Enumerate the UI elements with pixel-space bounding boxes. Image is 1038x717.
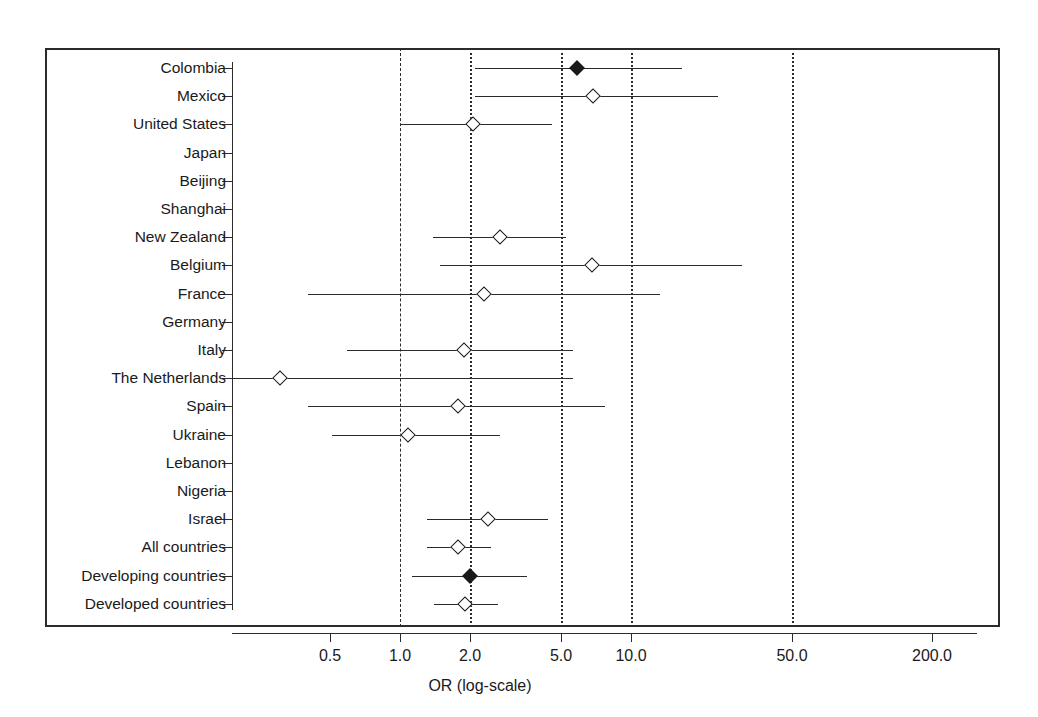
x-axis-tick: [470, 633, 471, 642]
x-axis-title-text: OR (log-scale): [428, 678, 531, 694]
x-axis-spine: [232, 633, 977, 634]
x-axis-tick-label: 50.0: [776, 648, 807, 664]
x-axis-tick-label: 200.0: [912, 648, 952, 664]
x-axis-tick-label: 1.0: [389, 648, 411, 664]
x-axis-tick-label: 2.0: [459, 648, 481, 664]
x-axis-tick: [792, 633, 793, 642]
x-axis-tick: [631, 633, 632, 642]
plot-frame: [45, 48, 1000, 627]
x-axis-tick-label: 10.0: [615, 648, 646, 664]
x-axis-tick: [330, 633, 331, 642]
x-axis-tick-label: 5.0: [550, 648, 572, 664]
x-axis-tick: [932, 633, 933, 642]
forest-plot-figure: ColombiaMexicoUnited StatesJapanBeijingS…: [0, 0, 1038, 717]
x-axis-title: OR (log-scale): [0, 678, 1038, 694]
x-axis-tick: [561, 633, 562, 642]
x-axis-tick-label: 0.5: [319, 648, 341, 664]
x-axis-tick: [400, 633, 401, 642]
